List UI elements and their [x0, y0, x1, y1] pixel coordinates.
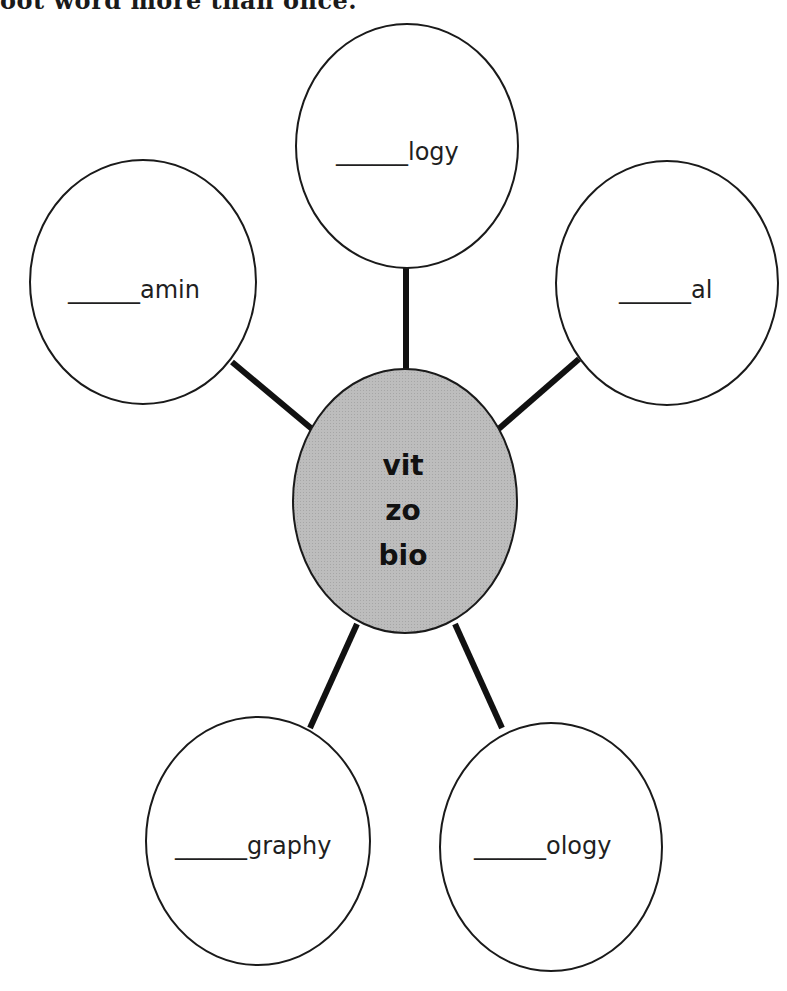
answer-blank[interactable]: ______: [473, 832, 547, 860]
svg-text:______logy: ______logy: [335, 138, 459, 166]
suffix-label: logy: [408, 138, 459, 166]
answer-blank[interactable]: ______: [335, 138, 409, 166]
root-vit: vit: [382, 449, 423, 482]
svg-text:______graphy: ______graphy: [174, 832, 331, 860]
connector-bottom-right: [455, 624, 502, 728]
svg-text:______amin: ______amin: [67, 276, 200, 304]
root-zo: zo: [385, 494, 421, 527]
word-web-diagram: ______logy ______amin ______al vit zo bi…: [0, 0, 787, 991]
svg-text:______ology: ______ology: [473, 832, 611, 860]
root-bio: bio: [379, 539, 428, 572]
answer-blank[interactable]: ______: [618, 276, 692, 304]
center-node: vit zo bio: [293, 369, 517, 633]
suffix-label: amin: [140, 276, 200, 304]
node-top: ______logy: [296, 24, 518, 268]
connector-right: [494, 359, 579, 433]
svg-text:______al: ______al: [618, 276, 712, 304]
node-bottom-left: ______graphy: [146, 717, 370, 965]
answer-blank[interactable]: ______: [174, 832, 248, 860]
node-left: ______amin: [30, 160, 256, 404]
suffix-label: al: [691, 276, 712, 304]
suffix-label: graphy: [247, 832, 331, 860]
connector-left: [232, 362, 318, 434]
answer-blank[interactable]: ______: [67, 276, 141, 304]
connector-bottom-left: [310, 624, 357, 728]
node-right: ______al: [556, 161, 778, 405]
suffix-label: ology: [546, 832, 611, 860]
node-bottom-right: ______ology: [440, 723, 662, 971]
